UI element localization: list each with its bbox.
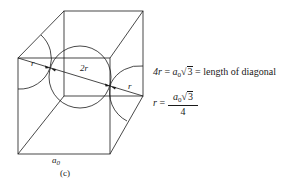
cube-edge — [18, 96, 64, 154]
radius-fraction: a0√3 4 — [168, 91, 198, 117]
equation-diagonal: 4r = a0√3 = length of diagonal — [153, 66, 276, 79]
cube-edge — [110, 11, 143, 58]
radius-label-right: r — [128, 82, 132, 91]
cube-edge — [18, 11, 64, 58]
figure-caption: (c) — [60, 169, 70, 178]
equation-radius: r = — [153, 98, 165, 108]
diameter-label: 2r — [80, 64, 88, 73]
arrow-head — [105, 84, 110, 87]
arrow-head — [45, 66, 50, 69]
cube-edge — [110, 96, 143, 154]
corner-atom-arc-back-right-top — [111, 66, 143, 83]
arrow-head — [111, 87, 116, 90]
arrow-head — [51, 69, 56, 72]
radius-label-left: r — [31, 59, 35, 68]
edge-length-label: a0 — [52, 156, 60, 167]
bcc-unit-cell-diagram — [0, 0, 286, 181]
